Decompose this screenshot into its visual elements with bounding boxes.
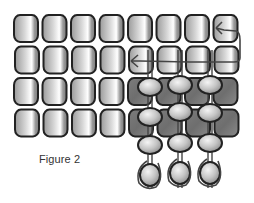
round-bead [138,108,162,126]
square-bead [43,15,67,42]
round-bead [138,78,162,96]
square-bead [14,78,38,105]
square-bead [128,15,152,42]
square-bead [15,47,39,74]
square-bead [186,47,210,74]
fringe-end-bead [140,164,160,186]
square-bead [157,15,181,42]
round-bead [168,103,192,121]
fringe-end-bead [200,162,220,184]
round-bead [138,136,162,154]
square-bead [100,78,124,105]
square-bead [15,110,39,137]
square-bead [101,47,125,74]
square-bead [14,15,38,42]
figure-caption: Figure 2 [39,153,80,165]
square-bead [71,15,95,42]
figure-canvas: Figure 2 [0,0,254,203]
square-bead [215,47,239,74]
bead-diagram [0,0,254,203]
fringe-end-bead [170,162,190,184]
round-bead [198,134,222,152]
square-bead [100,15,124,42]
square-bead [185,15,209,42]
square-bead [101,110,125,137]
round-bead [168,76,192,94]
square-bead [43,78,67,105]
round-bead [198,104,222,122]
square-bead [72,110,96,137]
square-bead [72,47,96,74]
round-bead [198,76,222,94]
square-bead [44,47,68,74]
square-bead [44,110,68,137]
round-bead [168,134,192,152]
square-bead [71,78,95,105]
